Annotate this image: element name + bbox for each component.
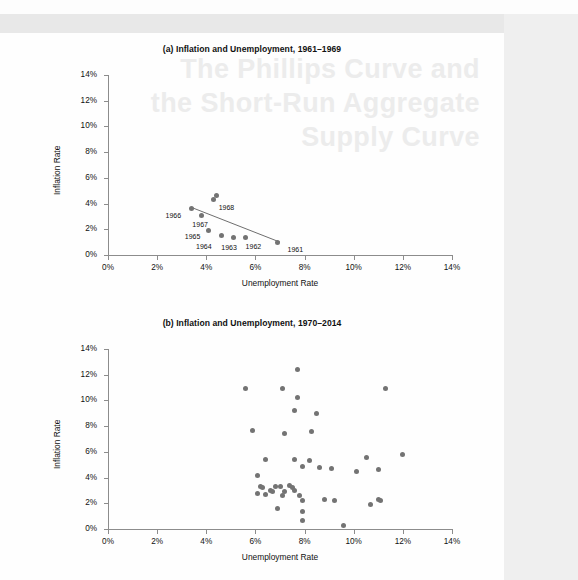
x-tickmark — [255, 530, 256, 534]
y-tickmark — [104, 478, 108, 479]
x-tick-label: 4% — [189, 263, 223, 272]
x-tickmark — [206, 256, 207, 260]
data-point — [376, 467, 381, 472]
x-axis-line-b — [108, 529, 453, 530]
data-point-label-1962: 1962 — [246, 243, 262, 250]
data-point — [292, 488, 297, 493]
x-tickmark — [157, 530, 158, 534]
x-axis-line-a — [108, 255, 453, 256]
y-tick-label: 6% — [67, 173, 97, 182]
data-point — [280, 493, 285, 498]
x-tickmark — [354, 530, 355, 534]
data-point — [214, 193, 219, 198]
x-axis-title-a: Unemployment Rate — [108, 278, 452, 288]
data-point — [341, 523, 346, 528]
chart-title-a: (a) Inflation and Unemployment, 1961–196… — [0, 44, 504, 54]
x-tickmark — [403, 256, 404, 260]
y-tickmark — [104, 126, 108, 127]
data-point — [300, 518, 305, 523]
data-point — [243, 386, 248, 391]
data-point — [250, 428, 255, 433]
data-point-label-1961: 1961 — [288, 246, 304, 253]
data-point — [270, 489, 275, 494]
y-tickmark — [104, 349, 108, 350]
y-tick-label: 10% — [67, 395, 97, 404]
y-tickmark — [104, 75, 108, 76]
y-tickmark — [104, 400, 108, 401]
y-tickmark — [104, 452, 108, 453]
data-point — [255, 491, 260, 496]
x-tick-label: 2% — [140, 537, 174, 546]
data-point — [368, 502, 373, 507]
data-point — [300, 464, 305, 469]
data-point — [263, 492, 268, 497]
chart-title-b: (b) Inflation and Unemployment, 1970–201… — [0, 318, 504, 328]
y-tickmark — [104, 375, 108, 376]
x-tick-label: 8% — [288, 263, 322, 272]
y-tick-label: 2% — [67, 224, 97, 233]
x-tickmark — [206, 530, 207, 534]
y-tickmark — [104, 178, 108, 179]
data-point — [307, 458, 312, 463]
y-axis-line-a — [108, 75, 109, 256]
data-point — [400, 452, 405, 457]
x-tickmark — [305, 256, 306, 260]
x-tick-label: 6% — [238, 263, 272, 272]
data-point — [322, 497, 327, 502]
data-point — [263, 457, 268, 462]
x-tick-label: 12% — [386, 263, 420, 272]
data-point — [295, 367, 300, 372]
x-tick-label: 6% — [238, 537, 272, 546]
y-axis-title-a: Inflation Rate — [52, 146, 62, 195]
x-tickmark — [403, 530, 404, 534]
data-point — [292, 457, 297, 462]
data-point-label-1966: 1966 — [166, 212, 182, 219]
y-axis-line-b — [108, 349, 109, 530]
y-tick-label: 12% — [67, 370, 97, 379]
data-point-label-1963: 1963 — [221, 244, 237, 251]
y-tick-label: 12% — [67, 96, 97, 105]
x-axis-title-b: Unemployment Rate — [108, 552, 452, 562]
data-point-label-1965: 1965 — [185, 233, 201, 240]
chart-panel-a: (a) Inflation and Unemployment, 1961–196… — [0, 44, 504, 314]
data-point — [354, 469, 359, 474]
y-tickmark — [104, 503, 108, 504]
x-tick-label: 14% — [435, 263, 469, 272]
x-tick-label: 10% — [337, 263, 371, 272]
data-point — [260, 485, 265, 490]
data-point — [314, 411, 319, 416]
data-point — [292, 408, 297, 413]
x-tick-label: 4% — [189, 537, 223, 546]
data-point — [206, 228, 211, 233]
y-tickmark — [104, 204, 108, 205]
phillips-curve-trendline — [0, 54, 504, 314]
y-tickmark — [104, 426, 108, 427]
data-point-label-1967: 1967 — [192, 221, 208, 228]
data-point-label-1964: 1964 — [196, 243, 212, 250]
y-tick-label: 14% — [67, 70, 97, 79]
data-point — [317, 465, 322, 470]
scan-band-right — [504, 14, 578, 580]
x-tickmark — [452, 530, 453, 534]
y-tick-label: 2% — [67, 498, 97, 507]
data-point — [309, 429, 314, 434]
y-axis-title-b: Inflation Rate — [52, 420, 62, 469]
y-tick-label: 6% — [67, 447, 97, 456]
x-tickmark — [354, 256, 355, 260]
data-point — [275, 240, 280, 245]
data-point — [255, 473, 260, 478]
data-point — [275, 506, 280, 511]
x-tickmark — [157, 256, 158, 260]
x-tick-label: 0% — [91, 263, 125, 272]
x-tick-label: 14% — [435, 537, 469, 546]
data-point — [189, 206, 194, 211]
data-point — [199, 213, 204, 218]
data-point-label-1968: 1968 — [219, 204, 235, 211]
chart-panel-b: (b) Inflation and Unemployment, 1970–201… — [0, 318, 504, 580]
x-tickmark — [255, 256, 256, 260]
data-point — [383, 386, 388, 391]
y-tickmark — [104, 152, 108, 153]
plot-area-b: 0%2%4%6%8%10%12%14%0%2%4%6%8%10%12%14%In… — [0, 328, 504, 580]
y-tick-label: 0% — [67, 524, 97, 533]
x-tick-label: 2% — [140, 263, 174, 272]
